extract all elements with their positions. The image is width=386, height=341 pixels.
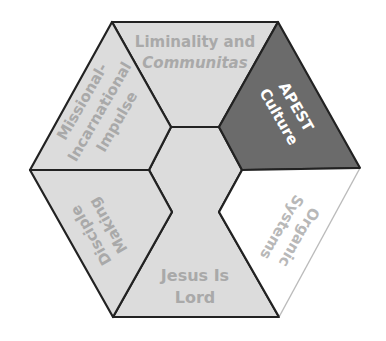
liminality-line1: Liminality and <box>135 33 255 51</box>
liminality-line2: Communitas <box>142 54 247 72</box>
jesus-line2: Lord <box>175 288 216 307</box>
mdna-hexagon-diagram: Liminality and Communitas APEST Culture … <box>0 0 386 341</box>
jesus-line1: Jesus Is <box>160 266 229 285</box>
